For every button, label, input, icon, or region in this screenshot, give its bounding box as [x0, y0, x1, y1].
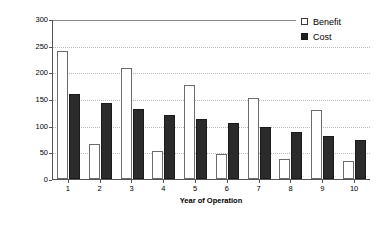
bar-benefit-year-6	[216, 154, 227, 179]
chart-legend: BenefitCost	[296, 11, 374, 47]
x-axis-tick-label: 2	[84, 180, 116, 194]
bar-cost-year-10	[355, 140, 366, 179]
legend-entry-cost: Cost	[301, 29, 370, 44]
filled-square-icon	[301, 33, 308, 40]
bar-benefit-year-9	[311, 110, 322, 179]
open-square-icon	[301, 18, 308, 25]
x-axis-tick-mark	[68, 180, 69, 183]
x-axis-tick-mark	[227, 180, 228, 183]
x-axis-tick-label: 6	[211, 180, 243, 194]
y-axis-title-container: $/kW Present Worth	[4, 18, 18, 182]
bar-group	[148, 20, 180, 179]
bar-cost-year-9	[323, 136, 334, 179]
y-axis-tick-label: 150	[22, 96, 48, 104]
bar-cost-year-4	[164, 115, 175, 179]
bar-group	[180, 20, 212, 179]
bar-group	[53, 20, 85, 179]
x-axis-tick-mark	[322, 180, 323, 183]
x-axis-tick-label: 7	[243, 180, 275, 194]
bar-group	[212, 20, 244, 179]
bar-cost-year-7	[260, 127, 271, 179]
x-axis-tick-label: 10	[338, 180, 370, 194]
x-axis-tick-label: 8	[275, 180, 307, 194]
bar-group	[85, 20, 117, 179]
bar-cost-year-8	[291, 132, 302, 179]
x-axis-tick-label: 4	[147, 180, 179, 194]
x-axis-tick-label: 9	[306, 180, 338, 194]
x-axis-tick-mark	[290, 180, 291, 183]
bar-benefit-year-10	[343, 161, 354, 179]
y-axis-tick-label: 250	[22, 43, 48, 51]
bar-group	[116, 20, 148, 179]
bar-cost-year-3	[133, 109, 144, 179]
x-axis-tick-label: 3	[116, 180, 148, 194]
bar-benefit-year-8	[279, 159, 290, 179]
x-axis-tick-label: 5	[179, 180, 211, 194]
bar-benefit-year-2	[89, 144, 100, 179]
y-axis-tick-label: 0	[22, 176, 48, 184]
legend-label: Benefit	[313, 17, 341, 27]
x-axis-tick-mark	[131, 180, 132, 183]
y-axis-tick-labels: 050100150200250300	[18, 20, 48, 180]
x-axis-tick-mark	[163, 180, 164, 183]
legend-label: Cost	[313, 32, 332, 42]
x-axis-tick-label: 1	[52, 180, 84, 194]
x-axis-title: Year of Operation	[52, 196, 370, 205]
bar-group	[243, 20, 275, 179]
bar-benefit-year-7	[248, 98, 259, 179]
bar-benefit-year-5	[184, 85, 195, 179]
legend-entry-benefit: Benefit	[301, 14, 370, 29]
x-axis-tick-labels: 12345678910	[52, 180, 370, 194]
bar-benefit-year-1	[57, 51, 68, 179]
y-axis-tick-label: 200	[22, 69, 48, 77]
y-axis-tick-label: 100	[22, 123, 48, 131]
x-axis-tick-mark	[195, 180, 196, 183]
x-axis-tick-mark	[354, 180, 355, 183]
x-axis-tick-mark	[100, 180, 101, 183]
bar-cost-year-6	[228, 123, 239, 179]
bar-benefit-year-3	[121, 68, 132, 179]
y-axis-tick-label: 50	[22, 149, 48, 157]
y-axis-tick-label: 300	[22, 16, 48, 24]
bar-benefit-year-4	[152, 151, 163, 179]
bar-cost-year-5	[196, 119, 207, 179]
bar-cost-year-1	[69, 94, 80, 179]
bar-chart: $/kW Present Worth 050100150200250300 12…	[0, 0, 385, 230]
bar-cost-year-2	[101, 103, 112, 179]
x-axis-tick-mark	[259, 180, 260, 183]
